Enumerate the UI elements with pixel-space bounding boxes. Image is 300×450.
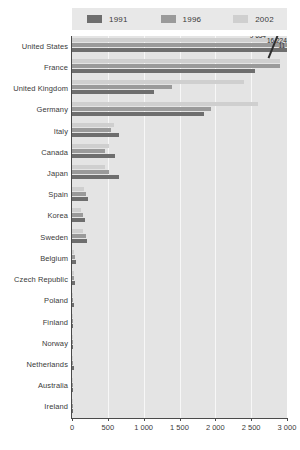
bar-2002[interactable]: [72, 208, 81, 212]
bar-1996[interactable]: [72, 149, 105, 153]
bar-1991[interactable]: [72, 366, 74, 370]
bar-2002[interactable]: [72, 250, 74, 254]
bar-group: [72, 59, 287, 80]
bar-1991[interactable]: [72, 218, 85, 222]
bar-1996[interactable]: [72, 213, 83, 217]
bar-1996[interactable]: [72, 383, 73, 387]
bar-1996[interactable]: [72, 85, 172, 89]
bar-group: [72, 250, 287, 271]
bar-2002[interactable]: [72, 59, 280, 63]
legend-label: 1996: [183, 15, 202, 24]
bar-1991[interactable]: [72, 69, 255, 73]
category-label-australia: Australia: [0, 381, 68, 390]
x-tick-mark: [215, 418, 216, 421]
bar-1991[interactable]: [72, 197, 88, 201]
bar-1991[interactable]: [72, 345, 73, 349]
bar-1991[interactable]: [72, 281, 75, 285]
bar-1996[interactable]: [72, 404, 73, 408]
bar-value-label: 11 029: [278, 42, 287, 49]
bar-1996[interactable]: [72, 128, 111, 132]
x-tick-mark: [72, 418, 73, 421]
bar-2002[interactable]: [72, 356, 73, 360]
legend-swatch-icon: [87, 15, 102, 23]
bar-group: [72, 314, 287, 335]
bar-1996[interactable]: [72, 276, 74, 280]
y-axis-line: [71, 36, 72, 419]
bar-2002[interactable]: [72, 314, 73, 318]
bar-1996[interactable]: [72, 298, 73, 302]
bar-1996[interactable]: [72, 340, 73, 344]
bar-1996[interactable]: [72, 107, 211, 111]
bar-2002[interactable]: [72, 123, 114, 127]
category-label-united-kingdom: United Kingdom: [0, 84, 68, 93]
x-tick-mark: [144, 418, 145, 421]
bar-2002[interactable]: [72, 335, 73, 339]
bar-2002[interactable]: [72, 271, 74, 275]
bar-1996[interactable]: [72, 234, 86, 238]
x-tick-mark: [251, 418, 252, 421]
category-label-italy: Italy: [0, 127, 68, 136]
bar-1991[interactable]: [72, 239, 87, 243]
x-tick-label: 3 000: [278, 423, 297, 432]
bar-group: [72, 271, 287, 292]
x-tick-label: 2 000: [206, 423, 225, 432]
bar-2002[interactable]: [72, 187, 84, 191]
legend-swatch-icon: [161, 15, 176, 23]
legend-item-1991[interactable]: 1991: [87, 15, 128, 24]
bar-1996[interactable]: [72, 43, 287, 47]
legend-item-1996[interactable]: 1996: [161, 15, 202, 24]
bar-1996[interactable]: [72, 170, 109, 174]
bar-1991[interactable]: [72, 90, 154, 94]
bar-1991[interactable]: [72, 48, 287, 52]
bar-group: [72, 229, 287, 250]
bar-1991[interactable]: [72, 388, 73, 392]
bar-1996[interactable]: [72, 361, 73, 365]
bar-1996[interactable]: [72, 64, 280, 68]
bar-1991[interactable]: [72, 260, 76, 264]
bar-group: [72, 356, 287, 377]
bar-1991[interactable]: [72, 133, 119, 137]
category-axis-labels: United StatesFranceUnited KingdomGermany…: [0, 36, 68, 418]
bar-2002[interactable]: [72, 293, 73, 297]
bar-group: [72, 102, 287, 123]
value-axis-labels: 05001 0001 5002 0002 5003 000: [0, 418, 300, 438]
bar-1991[interactable]: [72, 154, 115, 158]
legend-item-2002[interactable]: 2002: [233, 15, 274, 24]
bar-value-label: 9 654: [250, 36, 266, 39]
legend-label: 2002: [255, 15, 274, 24]
category-label-belgium: Belgium: [0, 254, 68, 263]
bar-1991[interactable]: [72, 409, 73, 413]
bar-1996[interactable]: [72, 255, 75, 259]
category-label-france: France: [0, 63, 68, 72]
bar-1991[interactable]: [72, 303, 74, 307]
bar-2002[interactable]: [72, 229, 83, 233]
bar-group: [72, 378, 287, 399]
x-tick-label: 1 500: [170, 423, 189, 432]
bar-2002[interactable]: [72, 165, 105, 169]
bar-chart: 199119962002 9 65416 22411 029 United St…: [0, 0, 300, 450]
legend-swatch-icon: [233, 15, 248, 23]
bar-group: [72, 80, 287, 101]
bar-1991[interactable]: [72, 112, 204, 116]
x-tick-mark: [108, 418, 109, 421]
category-label-ireland: Ireland: [0, 402, 68, 411]
bar-2002[interactable]: [72, 102, 258, 106]
bar-2002[interactable]: [72, 378, 73, 382]
x-tick-mark: [180, 418, 181, 421]
x-tick-label: 0: [70, 423, 74, 432]
category-label-united-states: United States: [0, 42, 68, 51]
bar-group: [72, 208, 287, 229]
x-tick-label: 2 500: [242, 423, 261, 432]
bar-1991[interactable]: [72, 175, 119, 179]
legend-label: 1991: [109, 15, 128, 24]
bar-2002[interactable]: [72, 144, 109, 148]
bar-1991[interactable]: [72, 324, 73, 328]
bar-1996[interactable]: [72, 319, 73, 323]
category-label-germany: Germany: [0, 105, 68, 114]
bar-2002[interactable]: [72, 80, 244, 84]
bar-group: [72, 144, 287, 165]
category-label-korea: Korea: [0, 211, 68, 220]
bar-1996[interactable]: [72, 192, 86, 196]
bar-group: [72, 165, 287, 186]
category-label-norway: Norway: [0, 339, 68, 348]
